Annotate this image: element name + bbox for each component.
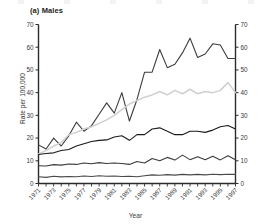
series-line-series-2-gray [39,82,236,154]
y-tick-label-right: 50 [241,66,249,73]
chart-figure: (a) Males Rate per 100,000 Year 01020304… [0,0,271,224]
y-tick-label-right: 20 [241,134,249,141]
y-tick-label-left: 0 [30,180,34,187]
x-tick-label: 1989 [163,186,178,201]
y-tick-label-left: 70 [26,21,34,28]
x-tick-label: 1977 [72,186,87,201]
line-chart-plot: 0102030405060700102030405060701971197319… [0,0,271,224]
series-line-series-5-bottom [39,174,236,177]
x-tick-label: 1983 [118,186,133,201]
x-tick-label: 1993 [194,186,209,201]
x-tick-label: 1973 [42,186,57,201]
y-tick-label-right: 30 [241,112,249,119]
x-tick-label: 1985 [133,186,148,201]
series-line-series-3-middle [39,126,236,155]
y-tick-label-right: 0 [241,180,245,187]
x-tick-label: 1995 [209,186,224,201]
cropped-edge-artifact [0,0,271,4]
y-tick-label-right: 40 [241,89,249,96]
y-axis-label: Rate per 100,000 [19,39,26,159]
x-tick-label: 1975 [57,186,72,201]
x-axis-label: Year [0,212,271,219]
x-tick-label: 1987 [148,186,163,201]
x-tick-label: 1991 [179,186,194,201]
x-tick-label: 1981 [103,186,118,201]
y-tick-label-left: 60 [26,44,34,51]
y-tick-label-left: 50 [26,66,34,73]
y-tick-label-left: 40 [26,89,34,96]
x-tick-label: 1979 [88,186,103,201]
y-tick-label-right: 70 [241,21,249,28]
page-title: (a) Males [30,6,63,15]
y-tick-label-left: 20 [26,134,34,141]
series-line-series-4-lower [39,155,236,166]
y-tick-label-right: 60 [241,44,249,51]
y-tick-label-left: 30 [26,112,34,119]
x-tick-label: 1997 [224,186,239,201]
x-tick-label: 1971 [27,186,42,201]
y-tick-label-left: 10 [26,157,34,164]
y-tick-label-right: 10 [241,157,249,164]
